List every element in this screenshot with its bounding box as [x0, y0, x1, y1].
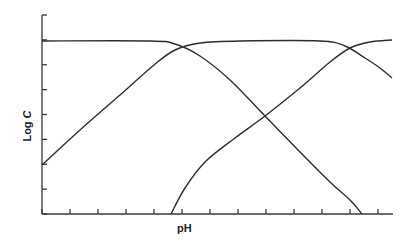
- curves: [42, 40, 392, 214]
- y-axis-label-text: Log: [21, 118, 33, 141]
- curve-species-2: [42, 41, 392, 165]
- curve-species-3: [171, 40, 392, 214]
- y-axis-label: Log C: [21, 101, 33, 151]
- y-ticks: [42, 15, 47, 214]
- log-c-ph-diagram: [0, 0, 410, 242]
- x-axis-label: pH: [177, 222, 192, 234]
- y-axis-label-italic: C: [21, 110, 33, 118]
- x-ticks: [42, 209, 378, 214]
- curve-species-1: [42, 41, 362, 214]
